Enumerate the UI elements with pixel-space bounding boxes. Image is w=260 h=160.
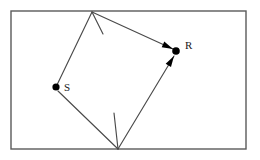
figure-container: S R: [0, 0, 260, 160]
node-label-s: S: [64, 81, 70, 93]
node-label-r: R: [185, 39, 193, 51]
node-point-r: [172, 47, 180, 55]
geometry-diagram: S R: [0, 0, 260, 160]
node-point-s: [52, 83, 59, 90]
diagram-frame-border: [11, 11, 246, 149]
